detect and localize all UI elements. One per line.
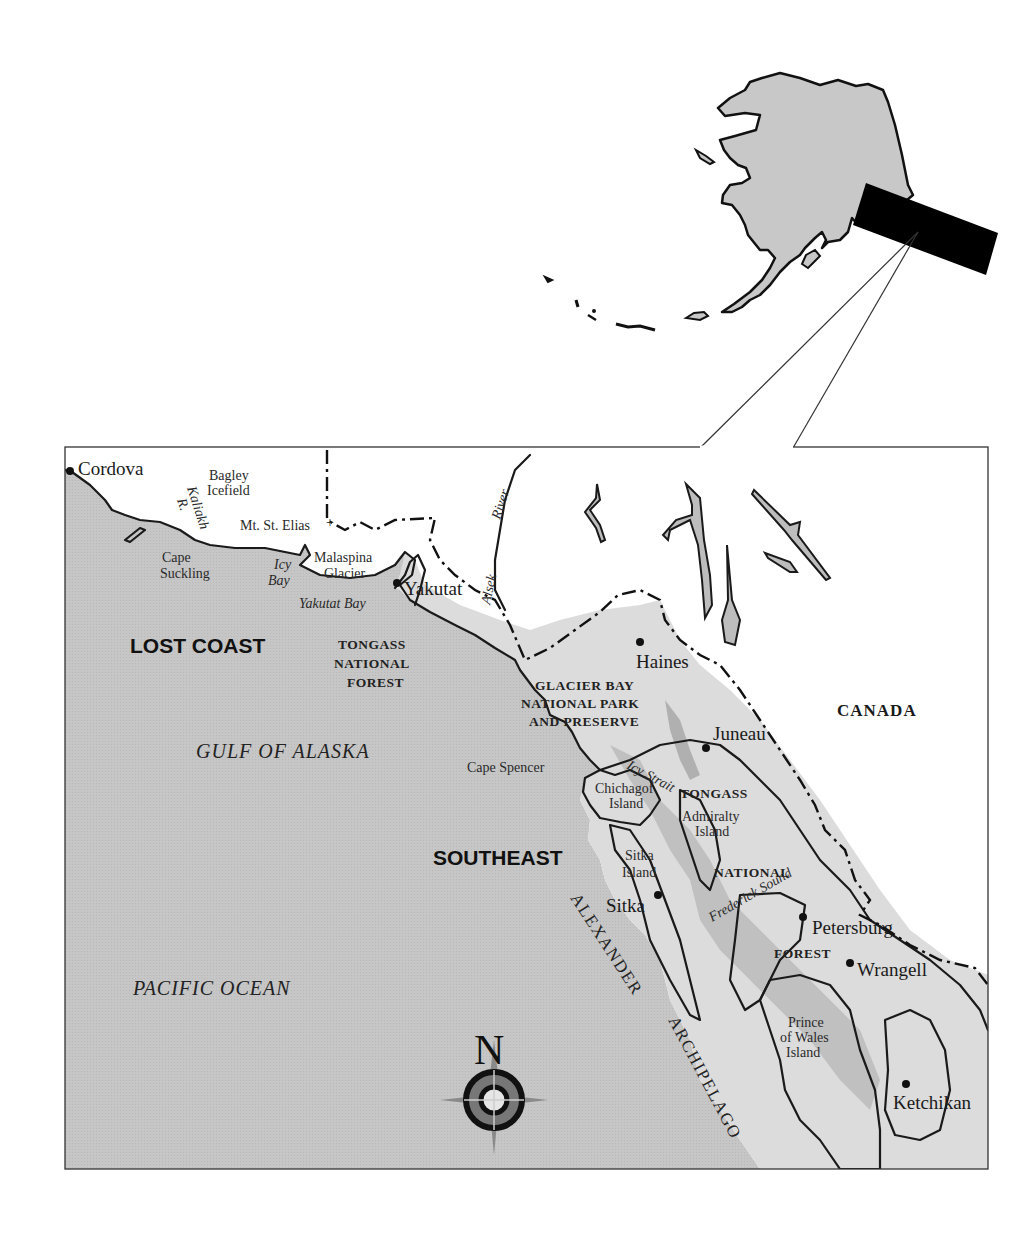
sitka-island-label-2: Island [622, 865, 656, 880]
city-dot-wrangell[interactable] [846, 959, 854, 967]
chichagof-label-2: Island [609, 796, 643, 811]
icy-bay-label-1: Icy [273, 557, 292, 572]
glacier-bay-1: GLACIER BAY [535, 678, 634, 693]
cape-spencer-label: Cape Spencer [467, 760, 545, 775]
city-label: Yakutat [404, 578, 463, 599]
glacier-bay-2: NATIONAL PARK [521, 696, 639, 711]
city-label: Sitka [606, 895, 646, 916]
inset-aleutian-3 [592, 309, 596, 313]
city-dot-petersburg[interactable] [799, 913, 807, 921]
icy-bay-label-2: Bay [268, 573, 291, 588]
inset-aleutian-4 [588, 315, 596, 320]
city-label: Ketchikan [893, 1092, 972, 1113]
sitka-island-label-1: Sitka [625, 848, 655, 863]
glacier-bay-3: AND PRESERVE [529, 714, 639, 729]
city-dot-sitka[interactable] [654, 891, 662, 899]
bagley-label-2: Icefield [207, 483, 250, 498]
pacific-ocean-label: PACIFIC OCEAN [132, 977, 291, 999]
region-southeast: SOUTHEAST [433, 846, 563, 869]
inset-st-lawrence-island [696, 150, 714, 164]
admiralty-label-1: Admiralty [682, 809, 740, 824]
tongass-east-3: FOREST [774, 946, 831, 961]
tongass-east-2: NATIONAL [714, 865, 790, 880]
pow-label-1: Prince [788, 1015, 824, 1030]
map-canvas: + Cordova Yakutat Haines Juneau Sitka Pe… [0, 0, 1019, 1257]
city-label: Wrangell [857, 959, 927, 980]
region-canada: CANADA [837, 701, 917, 720]
tongass-west-1: TONGASS [338, 637, 406, 652]
inset-map [545, 73, 998, 448]
mt-st-elias-label: Mt. St. Elias [240, 518, 310, 533]
city-label: Haines [636, 651, 689, 672]
city-dot-ketchikan[interactable] [902, 1080, 910, 1088]
city-dot-yakutat[interactable] [393, 579, 401, 587]
chichagof-label-1: Chichagof [595, 781, 654, 796]
inset-aleutian-5 [616, 324, 655, 330]
inset-aleutian-1 [545, 277, 552, 282]
inset-kodiak-island [802, 250, 820, 268]
inset-highlight-box [853, 183, 998, 275]
main-map [65, 447, 988, 1169]
gulf-of-alaska-label: GULF OF ALASKA [196, 740, 370, 762]
malaspina-label-2: Glacier [324, 566, 366, 581]
inset-aleutian-6 [686, 312, 708, 320]
yakutat-bay-label: Yakutat Bay [299, 596, 367, 611]
region-lost-coast: LOST COAST [130, 634, 266, 657]
cape-suckling-label-1: Cape [162, 550, 191, 565]
city-label: Petersburg [812, 917, 893, 938]
cape-suckling-label-2: Suckling [160, 566, 210, 581]
bagley-label-1: Bagley [209, 468, 249, 483]
pow-label-3: Island [786, 1045, 820, 1060]
mt-st-elias-marker: + [326, 515, 334, 530]
tongass-east-1: TONGASS [680, 786, 748, 801]
city-label: Juneau [713, 723, 766, 744]
inset-aleutian-2 [576, 300, 578, 307]
admiralty-label-2: Island [695, 824, 729, 839]
compass-north-label: N [474, 1027, 504, 1073]
tongass-west-3: FOREST [347, 675, 404, 690]
malaspina-label-1: Malaspina [314, 550, 373, 565]
city-label: Cordova [78, 458, 144, 479]
pow-label-2: of Wales [780, 1030, 829, 1045]
city-dot-juneau[interactable] [702, 744, 710, 752]
tongass-west-2: NATIONAL [334, 656, 410, 671]
city-dot-haines[interactable] [636, 638, 644, 646]
city-dot-cordova[interactable] [66, 467, 74, 475]
